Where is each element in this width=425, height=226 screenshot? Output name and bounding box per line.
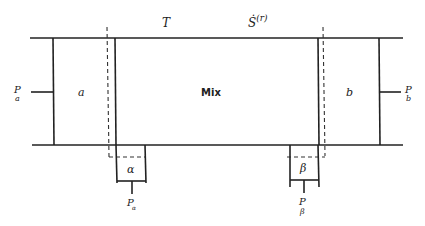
alpha-right-wall [145, 145, 146, 183]
pressure-a-subscript: a [15, 94, 20, 103]
control-volume-left [107, 27, 109, 157]
region-alpha-label: α [127, 163, 135, 176]
piston-a-wall [53, 38, 54, 145]
pressure-alpha-subscript: α [132, 204, 136, 211]
region-mix-label: Mix [201, 87, 221, 98]
mixing-diagram: T Ṡ(r) a Mix b α β P a P b P α P β [0, 0, 425, 226]
region-b-label: b [346, 86, 353, 99]
region-a-label: a [78, 86, 85, 99]
pressure-beta-subscript: β [299, 207, 305, 216]
mix-left-membrane [115, 38, 116, 145]
control-volume-right [323, 27, 325, 156]
entropy-label: Ṡ(r) [248, 13, 268, 30]
piston-b-wall [379, 38, 380, 145]
mix-right-membrane [318, 38, 319, 145]
pressure-beta-label: P [298, 196, 306, 207]
pressure-b-subscript: b [406, 94, 411, 103]
temperature-label: T [162, 16, 171, 30]
region-beta-label: β [299, 162, 306, 175]
alpha-left-wall [116, 145, 117, 183]
